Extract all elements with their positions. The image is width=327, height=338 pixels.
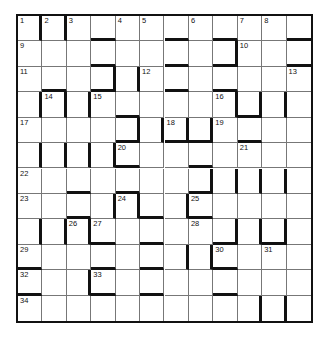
grid-cell[interactable]: 9 bbox=[18, 41, 42, 66]
grid-cell[interactable]: 24 bbox=[116, 194, 140, 219]
grid-cell[interactable] bbox=[238, 270, 262, 295]
grid-cell[interactable] bbox=[165, 245, 189, 270]
grid-cell[interactable] bbox=[116, 169, 140, 194]
grid-cell[interactable] bbox=[189, 67, 213, 92]
grid-cell[interactable]: 6 bbox=[189, 16, 213, 41]
grid-cell[interactable]: 22 bbox=[18, 169, 42, 194]
grid-cell[interactable] bbox=[116, 118, 140, 143]
grid-cell[interactable] bbox=[213, 169, 237, 194]
grid-cell[interactable] bbox=[116, 67, 140, 92]
grid-cell[interactable] bbox=[262, 296, 286, 321]
grid-cell[interactable] bbox=[262, 118, 286, 143]
grid-cell[interactable] bbox=[238, 67, 262, 92]
grid-cell[interactable] bbox=[189, 92, 213, 117]
grid-cell[interactable] bbox=[42, 143, 66, 168]
grid-cell[interactable] bbox=[238, 219, 262, 244]
grid-cell[interactable] bbox=[67, 194, 91, 219]
grid-cell[interactable] bbox=[140, 143, 164, 168]
grid-cell[interactable] bbox=[42, 41, 66, 66]
grid-cell[interactable] bbox=[238, 296, 262, 321]
grid-cell[interactable] bbox=[91, 169, 115, 194]
grid-cell[interactable]: 1 bbox=[18, 16, 42, 41]
grid-cell[interactable] bbox=[287, 296, 311, 321]
grid-cell[interactable] bbox=[116, 245, 140, 270]
grid-cell[interactable] bbox=[67, 41, 91, 66]
grid-cell[interactable] bbox=[67, 296, 91, 321]
grid-cell[interactable] bbox=[91, 296, 115, 321]
grid-cell[interactable] bbox=[165, 270, 189, 295]
grid-cell[interactable]: 31 bbox=[262, 245, 286, 270]
grid-cell[interactable] bbox=[165, 92, 189, 117]
grid-cell[interactable]: 17 bbox=[18, 118, 42, 143]
grid-cell[interactable] bbox=[18, 219, 42, 244]
grid-cell[interactable] bbox=[42, 67, 66, 92]
grid-cell[interactable] bbox=[287, 194, 311, 219]
grid-cell[interactable] bbox=[213, 219, 237, 244]
grid-cell[interactable] bbox=[140, 245, 164, 270]
grid-cell[interactable] bbox=[116, 41, 140, 66]
grid-cell[interactable] bbox=[67, 169, 91, 194]
grid-cell[interactable] bbox=[287, 219, 311, 244]
grid-cell[interactable]: 23 bbox=[18, 194, 42, 219]
grid-cell[interactable]: 28 bbox=[189, 219, 213, 244]
grid-cell[interactable] bbox=[213, 296, 237, 321]
grid-cell[interactable] bbox=[238, 194, 262, 219]
grid-cell[interactable] bbox=[262, 143, 286, 168]
grid-cell[interactable] bbox=[91, 118, 115, 143]
grid-cell[interactable] bbox=[67, 67, 91, 92]
grid-cell[interactable] bbox=[140, 194, 164, 219]
grid-cell[interactable] bbox=[238, 245, 262, 270]
grid-cell[interactable] bbox=[165, 16, 189, 41]
grid-cell[interactable] bbox=[42, 270, 66, 295]
grid-cell[interactable] bbox=[67, 245, 91, 270]
grid-cell[interactable]: 19 bbox=[213, 118, 237, 143]
grid-cell[interactable] bbox=[213, 16, 237, 41]
grid-cell[interactable]: 16 bbox=[213, 92, 237, 117]
grid-cell[interactable] bbox=[213, 270, 237, 295]
grid-cell[interactable] bbox=[213, 194, 237, 219]
grid-cell[interactable]: 4 bbox=[116, 16, 140, 41]
grid-cell[interactable] bbox=[140, 169, 164, 194]
grid-cell[interactable]: 12 bbox=[140, 67, 164, 92]
grid-cell[interactable] bbox=[18, 143, 42, 168]
grid-cell[interactable] bbox=[287, 118, 311, 143]
grid-cell[interactable]: 25 bbox=[189, 194, 213, 219]
grid-cell[interactable]: 5 bbox=[140, 16, 164, 41]
grid-cell[interactable] bbox=[42, 194, 66, 219]
grid-cell[interactable]: 32 bbox=[18, 270, 42, 295]
grid-cell[interactable]: 10 bbox=[238, 41, 262, 66]
grid-cell[interactable] bbox=[165, 219, 189, 244]
grid-cell[interactable] bbox=[42, 245, 66, 270]
grid-cell[interactable] bbox=[67, 270, 91, 295]
grid-cell[interactable]: 3 bbox=[67, 16, 91, 41]
grid-cell[interactable] bbox=[140, 296, 164, 321]
grid-cell[interactable] bbox=[262, 219, 286, 244]
grid-cell[interactable] bbox=[262, 270, 286, 295]
grid-cell[interactable] bbox=[213, 67, 237, 92]
grid-cell[interactable]: 20 bbox=[116, 143, 140, 168]
grid-cell[interactable] bbox=[287, 270, 311, 295]
grid-cell[interactable]: 27 bbox=[91, 219, 115, 244]
grid-cell[interactable] bbox=[42, 296, 66, 321]
grid-cell[interactable] bbox=[116, 296, 140, 321]
grid-cell[interactable] bbox=[262, 194, 286, 219]
grid-cell[interactable]: 34 bbox=[18, 296, 42, 321]
grid-cell[interactable] bbox=[262, 92, 286, 117]
grid-cell[interactable] bbox=[18, 92, 42, 117]
grid-cell[interactable] bbox=[91, 16, 115, 41]
grid-cell[interactable] bbox=[238, 118, 262, 143]
grid-cell[interactable] bbox=[42, 118, 66, 143]
grid-cell[interactable] bbox=[140, 270, 164, 295]
grid-cell[interactable] bbox=[189, 296, 213, 321]
grid-cell[interactable] bbox=[67, 143, 91, 168]
grid-cell[interactable] bbox=[189, 143, 213, 168]
grid-cell[interactable]: 26 bbox=[67, 219, 91, 244]
grid-cell[interactable] bbox=[189, 270, 213, 295]
grid-cell[interactable]: 7 bbox=[238, 16, 262, 41]
grid-cell[interactable] bbox=[165, 143, 189, 168]
grid-cell[interactable] bbox=[165, 67, 189, 92]
grid-cell[interactable] bbox=[165, 296, 189, 321]
grid-cell[interactable] bbox=[189, 118, 213, 143]
grid-cell[interactable] bbox=[238, 92, 262, 117]
grid-cell[interactable]: 8 bbox=[262, 16, 286, 41]
